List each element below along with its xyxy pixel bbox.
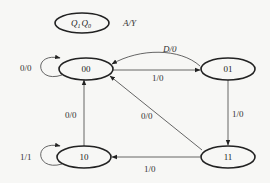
- legend-transition-format: A/Y: [122, 18, 137, 28]
- state-10: 10: [57, 146, 111, 168]
- legend: Q1Q0 A/Y: [55, 13, 137, 33]
- edge-label-00-00: 0/0: [20, 63, 32, 73]
- edge-01-00: [112, 52, 200, 66]
- edge-label-11-00: 0/0: [141, 111, 153, 121]
- edge-label-01-00: D/0: [162, 44, 177, 54]
- state-11-label: 11: [224, 152, 233, 162]
- edge-11-00: [110, 76, 202, 150]
- state-11: 11: [201, 146, 255, 168]
- edge-label-01-11: 1/0: [232, 109, 244, 119]
- edge-label-00-01: 1/0: [152, 73, 164, 83]
- state-00-label: 00: [82, 64, 92, 74]
- state-10-label: 10: [80, 152, 90, 162]
- state-diagram: Q1Q0 A/Y 0/0 1/0 D/0 1/0 1/0 0/0 0/0 1/1…: [0, 0, 270, 183]
- edge-label-10-00: 0/0: [65, 110, 77, 120]
- state-01-label: 01: [224, 64, 233, 74]
- state-00: 00: [59, 58, 113, 80]
- edge-label-10-10: 1/1: [20, 152, 32, 162]
- edge-label-11-10: 1/0: [144, 164, 156, 174]
- state-01: 01: [201, 58, 255, 80]
